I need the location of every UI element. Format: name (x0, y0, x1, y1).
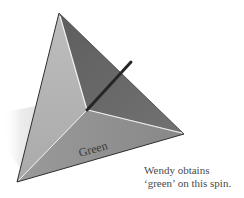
caption-line-2: ‘green’ on this spin. (144, 177, 244, 190)
caption: Wendy obtains ‘green’ on this spin. (144, 164, 244, 189)
spinner-illustration: Green Wendy obtains ‘green’ on this spin… (0, 0, 244, 198)
caption-line-1: Wendy obtains (144, 164, 244, 177)
